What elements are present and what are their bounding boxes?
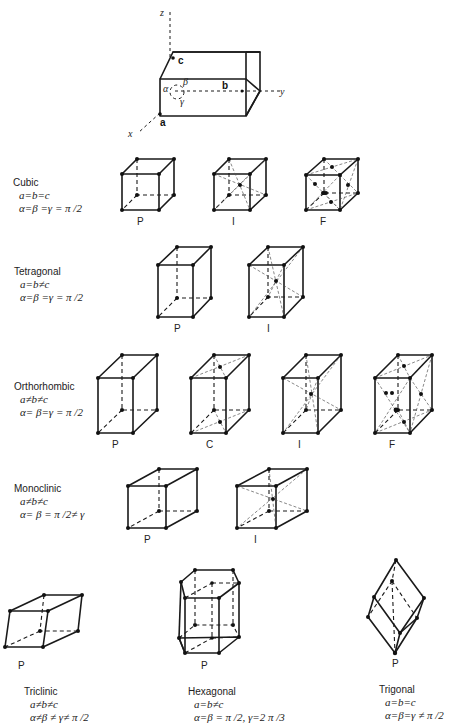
angle-relation: α=β =γ = π /2 bbox=[13, 202, 82, 215]
system-name: Triclinic bbox=[24, 685, 89, 698]
monoclinic-description: Monoclinic a≠b≠c α= β = π /2≠ γ bbox=[14, 482, 84, 521]
angle-relation: α≠β ≠ γ≠ π /2 bbox=[24, 711, 89, 724]
angle-relation: α= β = π /2≠ γ bbox=[14, 508, 84, 521]
trigonal-description: Trigonal a=b=c α=β=γ ≠ π /2 bbox=[379, 683, 444, 722]
angle-relation: α= β=γ = π /2 bbox=[14, 406, 83, 419]
orthorhombic-f-cell bbox=[373, 353, 434, 435]
a-vector-label: a bbox=[160, 117, 166, 128]
gamma-label: γ bbox=[180, 96, 185, 107]
system-name: Orthorhombic bbox=[14, 380, 83, 393]
z-axis-label: z bbox=[159, 7, 164, 18]
orthorhombic-i-label: I bbox=[298, 439, 301, 450]
system-name: Hexagonal bbox=[188, 685, 285, 698]
hexagonal-p-cell bbox=[177, 568, 241, 655]
axis-relation: a=b≠c bbox=[188, 698, 285, 711]
system-name: Cubic bbox=[13, 176, 82, 189]
cubic-f-label: F bbox=[320, 216, 326, 227]
alpha-label: α bbox=[163, 83, 169, 94]
orthorhombic-description: Orthorhombic a≠b≠c α= β=γ = π /2 bbox=[14, 380, 83, 419]
cubic-p-cell bbox=[120, 157, 176, 212]
beta-label: β bbox=[182, 76, 188, 87]
tetragonal-p-label: P bbox=[174, 323, 181, 334]
b-vector-label: b bbox=[222, 80, 228, 91]
axis-relation: a=b=c bbox=[379, 696, 444, 709]
cubic-description: Cubic a=b=c α=β =γ = π /2 bbox=[13, 176, 82, 215]
axis-relation: a=b=c bbox=[13, 189, 82, 202]
system-name: Tetragonal bbox=[14, 265, 83, 278]
hexagonal-p-label: P bbox=[201, 660, 208, 671]
cubic-f-cell bbox=[304, 157, 360, 212]
system-name: Monoclinic bbox=[14, 482, 84, 495]
tetragonal-i-label: I bbox=[267, 323, 270, 334]
monoclinic-i-label: I bbox=[254, 534, 257, 545]
tetragonal-description: Tetragonal a=b≠c α=β =γ = π /2 bbox=[14, 265, 83, 304]
axis-relation: a=b≠c bbox=[14, 278, 83, 291]
monoclinic-p-label: P bbox=[144, 534, 151, 545]
triclinic-description: Triclinic a≠b≠c α≠β ≠ γ≠ π /2 bbox=[24, 685, 89, 724]
monoclinic-i-cell bbox=[235, 467, 309, 530]
angle-relation: α=β=γ ≠ π /2 bbox=[379, 709, 444, 722]
triclinic-p-cell bbox=[3, 593, 84, 649]
orthorhombic-p-cell bbox=[96, 353, 159, 435]
angle-relation: α=β =γ = π /2 bbox=[14, 291, 83, 304]
axis-reference-cell bbox=[138, 12, 280, 133]
axis-relation: a≠b≠c bbox=[14, 495, 84, 508]
c-vector-label: c bbox=[178, 55, 184, 66]
trigonal-p-label: P bbox=[392, 658, 399, 669]
orthorhombic-c-label: C bbox=[206, 439, 213, 450]
angle-relation: α=β = π /2, γ=2 π /3 bbox=[188, 711, 285, 724]
tetragonal-i-cell bbox=[247, 245, 305, 319]
bravais-lattice-diagram: z y x c b a α β γ bbox=[0, 0, 453, 727]
orthorhombic-i-cell bbox=[281, 353, 343, 435]
axis-relation: a≠b≠c bbox=[14, 393, 83, 406]
cubic-i-cell bbox=[212, 157, 268, 212]
cubic-i-label: I bbox=[232, 216, 235, 227]
x-axis-label: x bbox=[127, 128, 133, 139]
monoclinic-p-cell bbox=[126, 467, 199, 530]
axis-relation: a≠b≠c bbox=[24, 698, 89, 711]
hexagonal-description: Hexagonal a=b≠c α=β = π /2, γ=2 π /3 bbox=[188, 685, 285, 724]
system-name: Trigonal bbox=[379, 683, 444, 696]
y-axis-label: y bbox=[279, 86, 285, 97]
orthorhombic-f-label: F bbox=[389, 439, 395, 450]
cubic-p-label: P bbox=[137, 216, 144, 227]
trigonal-p-cell bbox=[366, 558, 426, 655]
triclinic-p-label: P bbox=[18, 660, 25, 671]
orthorhombic-p-label: P bbox=[112, 439, 119, 450]
orthorhombic-c-cell bbox=[189, 353, 251, 435]
tetragonal-p-cell bbox=[156, 245, 213, 319]
